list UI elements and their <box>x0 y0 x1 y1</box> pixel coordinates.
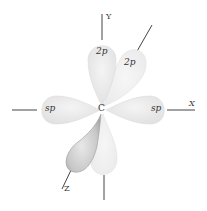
orbital-label-sp-left: sp <box>45 104 55 113</box>
center-atom-label: C <box>98 104 105 113</box>
tilted-axis-top-line <box>136 25 152 53</box>
x-axis-label: X <box>189 100 195 108</box>
z-axis-label: Z <box>64 185 70 193</box>
orbital-diagram: Y 2p 2p sp C sp X Z <box>0 0 207 211</box>
orbital-label-2p-tilted: 2p <box>124 58 136 67</box>
orbital-label-sp-right: sp <box>151 104 161 113</box>
orbital-label-2p-up: 2p <box>96 47 108 56</box>
y-axis-label: Y <box>106 13 111 21</box>
